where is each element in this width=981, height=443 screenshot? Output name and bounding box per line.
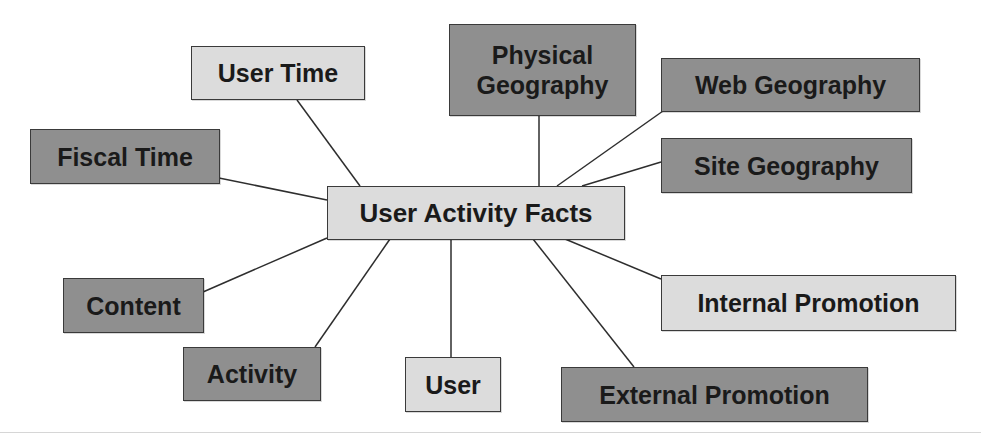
- edge-site-geography: [582, 162, 661, 186]
- node-user-time[interactable]: User Time: [191, 46, 365, 100]
- bottom-rule: [0, 432, 981, 433]
- edge-activity: [315, 239, 390, 347]
- node-web-geography[interactable]: Web Geography: [661, 58, 920, 112]
- node-fiscal-time[interactable]: Fiscal Time: [30, 129, 220, 184]
- node-activity[interactable]: Activity: [183, 347, 321, 401]
- edge-fiscal-time: [219, 178, 327, 200]
- node-user[interactable]: User: [405, 357, 501, 412]
- edge-internal-promotion: [565, 239, 661, 279]
- edge-external-promotion: [533, 239, 634, 367]
- node-external-promotion[interactable]: External Promotion: [561, 367, 868, 422]
- node-content[interactable]: Content: [63, 278, 204, 333]
- edge-web-geography: [557, 111, 663, 186]
- node-internal-promotion[interactable]: Internal Promotion: [661, 275, 956, 331]
- edge-content: [203, 238, 327, 292]
- node-site-geography[interactable]: Site Geography: [661, 138, 912, 193]
- node-physical-geography[interactable]: Physical Geography: [449, 24, 636, 116]
- edge-user-time: [297, 100, 360, 186]
- node-user-activity-facts[interactable]: User Activity Facts: [327, 186, 625, 240]
- star-schema-diagram: User Activity Facts User Time Fiscal Tim…: [0, 0, 981, 443]
